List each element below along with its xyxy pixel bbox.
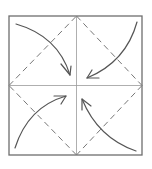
blintz-fold-diagram bbox=[0, 0, 152, 169]
center-creases bbox=[9, 16, 142, 155]
arrow-bottom-left-icon bbox=[15, 96, 66, 148]
arrow-top-right-icon bbox=[87, 22, 137, 78]
fold-top-left bbox=[9, 16, 77, 86]
arrow-bottom-right-icon bbox=[82, 99, 136, 151]
fold-top-right bbox=[77, 16, 143, 86]
fold-arrows bbox=[15, 22, 137, 151]
arrow-top-left-icon bbox=[16, 24, 71, 75]
fold-bottom-right bbox=[77, 86, 143, 156]
